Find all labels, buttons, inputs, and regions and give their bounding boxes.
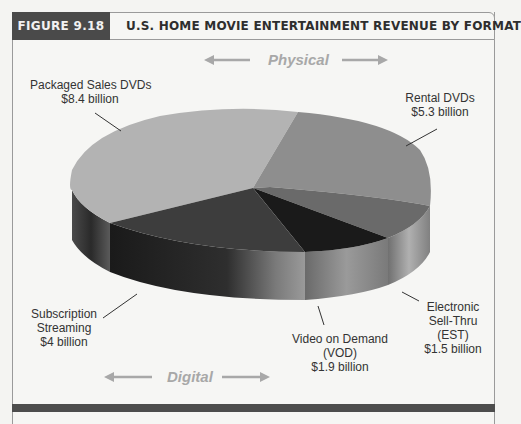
label-subscription-name-1: Subscription bbox=[26, 307, 102, 321]
leader-est bbox=[402, 292, 419, 301]
label-vod-abbrev: (VOD) bbox=[290, 346, 390, 360]
label-subscription-streaming: Subscription Streaming $4 billion bbox=[26, 307, 102, 349]
physical-group-label: Physical bbox=[268, 51, 329, 68]
label-rental-dvds: Rental DVDs $5.3 billion bbox=[400, 91, 480, 119]
label-rental-name: Rental DVDs bbox=[400, 91, 480, 105]
label-est-name-1: Electronic bbox=[420, 300, 486, 314]
label-est-abbrev: (EST) bbox=[420, 328, 486, 342]
label-vod-value: $1.9 billion bbox=[290, 360, 390, 374]
leader-vod bbox=[318, 306, 324, 325]
label-subscription-name-2: Streaming bbox=[26, 321, 102, 335]
label-est-name-2: Sell-Thru bbox=[420, 314, 486, 328]
label-packaged-sales-dvds: Packaged Sales DVDs $8.4 billion bbox=[30, 78, 150, 106]
leader-packaged bbox=[95, 113, 121, 131]
label-packaged-name: Packaged Sales DVDs bbox=[30, 78, 150, 92]
label-vod-name: Video on Demand bbox=[290, 332, 390, 346]
label-rental-value: $5.3 billion bbox=[400, 105, 480, 119]
label-electronic-sell-thru: Electronic Sell-Thru (EST) $1.5 billion bbox=[420, 300, 486, 356]
digital-group-label: Digital bbox=[167, 368, 213, 385]
label-est-value: $1.5 billion bbox=[420, 342, 486, 356]
leader-rental bbox=[406, 129, 437, 146]
label-packaged-value: $8.4 billion bbox=[30, 92, 150, 106]
label-video-on-demand: Video on Demand (VOD) $1.9 billion bbox=[290, 332, 390, 374]
leader-subscription bbox=[103, 294, 137, 318]
label-subscription-value: $4 billion bbox=[26, 335, 102, 349]
footer-bar bbox=[12, 404, 495, 412]
